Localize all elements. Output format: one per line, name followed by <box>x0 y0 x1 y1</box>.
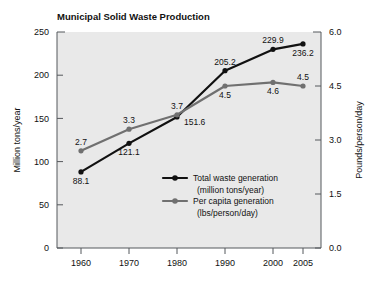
series-marker-0 <box>300 41 305 46</box>
plot-area-background <box>57 32 321 248</box>
legend-swatch-marker-1 <box>172 198 178 204</box>
x-tick-label: 1960 <box>71 258 91 268</box>
left-axis-title: Million tons/year <box>12 107 22 172</box>
legend-units-1: (lbs/person/day) <box>197 208 258 218</box>
left-tick-label: 200 <box>34 70 49 80</box>
data-label: 205.2 <box>214 57 236 67</box>
municipal-solid-waste-chart: Municipal Solid Waste Production 0501001… <box>0 0 381 288</box>
left-tick-label: 250 <box>34 27 49 37</box>
data-label: 3.7 <box>171 101 183 111</box>
data-label: 4.6 <box>267 86 279 96</box>
data-label: 121.1 <box>118 147 140 157</box>
left-tick-label: 0 <box>44 243 49 253</box>
right-tick-label: 1.5 <box>329 189 342 199</box>
x-tick-label: 1970 <box>119 258 139 268</box>
data-label: 151.6 <box>184 117 206 127</box>
data-label: 3.3 <box>123 115 135 125</box>
x-tick-label: 2000 <box>263 258 283 268</box>
x-tick-label: 1980 <box>167 258 187 268</box>
series-marker-0 <box>222 68 227 73</box>
legend-swatch-marker-0 <box>172 175 178 181</box>
data-label: 4.5 <box>297 72 309 82</box>
series-marker-0 <box>126 141 131 146</box>
data-label: 4.5 <box>219 90 231 100</box>
x-tick-label: 2005 <box>293 258 313 268</box>
data-label: 229.9 <box>262 35 284 45</box>
left-tick-label: 150 <box>34 114 49 124</box>
series-marker-1 <box>126 127 131 132</box>
series-marker-1 <box>78 148 83 153</box>
series-marker-1 <box>174 112 179 117</box>
right-axis-title: Pounds/person/day <box>354 101 364 179</box>
data-label: 88.1 <box>73 176 90 186</box>
right-tick-label: 3.0 <box>329 135 342 145</box>
series-marker-0 <box>78 169 83 174</box>
right-tick-label: 0.0 <box>329 243 342 253</box>
legend-label-1: Per capita generation <box>193 196 274 206</box>
chart-title: Municipal Solid Waste Production <box>57 11 210 22</box>
data-label: 2.7 <box>75 137 87 147</box>
legend-units-0: (million tons/year) <box>197 185 264 195</box>
legend-label-0: Total waste generation <box>193 173 278 183</box>
right-tick-label: 6.0 <box>329 27 342 37</box>
series-marker-1 <box>222 83 227 88</box>
data-label: 236.2 <box>292 48 314 58</box>
series-marker-1 <box>300 83 305 88</box>
right-tick-label: 4.5 <box>329 81 342 91</box>
series-marker-0 <box>270 47 275 52</box>
left-tick-label: 50 <box>39 200 49 210</box>
chart-figure: Municipal Solid Waste Production 0501001… <box>0 0 381 288</box>
series-marker-1 <box>270 80 275 85</box>
x-tick-label: 1990 <box>215 258 235 268</box>
left-tick-label: 100 <box>34 157 49 167</box>
